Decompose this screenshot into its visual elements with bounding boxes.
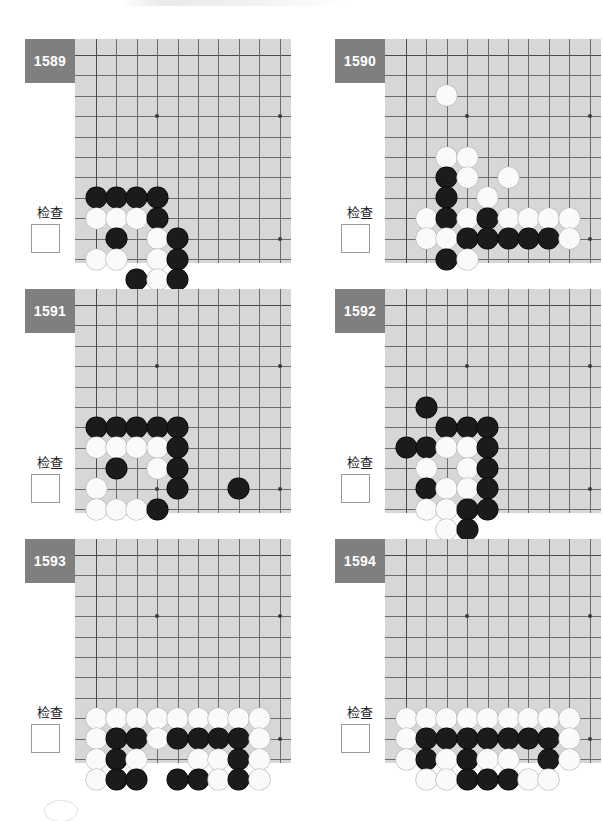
white-stone[interactable] <box>86 749 107 770</box>
black-stone[interactable] <box>86 417 107 438</box>
white-stone[interactable] <box>457 147 478 168</box>
white-stone[interactable] <box>498 708 519 729</box>
go-board[interactable] <box>75 39 291 263</box>
white-stone[interactable] <box>477 708 498 729</box>
white-stone[interactable] <box>147 228 168 249</box>
white-stone[interactable] <box>477 187 498 208</box>
white-stone[interactable] <box>249 728 270 749</box>
white-stone[interactable] <box>106 708 127 729</box>
black-stone[interactable] <box>477 228 498 249</box>
white-stone[interactable] <box>106 208 127 229</box>
black-stone[interactable] <box>436 728 457 749</box>
white-stone[interactable] <box>538 208 559 229</box>
check-checkbox[interactable] <box>31 724 60 753</box>
black-stone[interactable] <box>106 728 127 749</box>
black-stone[interactable] <box>538 749 559 770</box>
black-stone[interactable] <box>416 397 437 418</box>
white-stone[interactable] <box>249 749 270 770</box>
black-stone[interactable] <box>228 728 249 749</box>
white-stone[interactable] <box>436 478 457 499</box>
black-stone[interactable] <box>457 749 478 770</box>
white-stone[interactable] <box>126 749 147 770</box>
white-stone[interactable] <box>457 458 478 479</box>
white-stone[interactable] <box>457 478 478 499</box>
black-stone[interactable] <box>106 417 127 438</box>
white-stone[interactable] <box>228 708 249 729</box>
black-stone[interactable] <box>106 749 127 770</box>
white-stone[interactable] <box>188 708 209 729</box>
black-stone[interactable] <box>498 228 519 249</box>
black-stone[interactable] <box>436 167 457 188</box>
black-stone[interactable] <box>126 417 147 438</box>
black-stone[interactable] <box>416 749 437 770</box>
white-stone[interactable] <box>106 249 127 270</box>
white-stone[interactable] <box>416 228 437 249</box>
white-stone[interactable] <box>396 728 417 749</box>
white-stone[interactable] <box>498 749 519 770</box>
white-stone[interactable] <box>457 249 478 270</box>
white-stone[interactable] <box>559 708 580 729</box>
white-stone[interactable] <box>106 499 127 520</box>
black-stone[interactable] <box>436 208 457 229</box>
white-stone[interactable] <box>416 458 437 479</box>
white-stone[interactable] <box>518 208 539 229</box>
black-stone[interactable] <box>498 769 519 790</box>
white-stone[interactable] <box>208 708 229 729</box>
black-stone[interactable] <box>126 187 147 208</box>
white-stone[interactable] <box>416 499 437 520</box>
black-stone[interactable] <box>167 728 188 749</box>
black-stone[interactable] <box>228 749 249 770</box>
black-stone[interactable] <box>106 769 127 790</box>
white-stone[interactable] <box>147 249 168 270</box>
white-stone[interactable] <box>436 499 457 520</box>
black-stone[interactable] <box>477 728 498 749</box>
go-board[interactable] <box>385 289 601 513</box>
white-stone[interactable] <box>86 499 107 520</box>
white-stone[interactable] <box>436 228 457 249</box>
black-stone[interactable] <box>147 417 168 438</box>
black-stone[interactable] <box>167 437 188 458</box>
white-stone[interactable] <box>559 208 580 229</box>
white-stone[interactable] <box>86 728 107 749</box>
go-board[interactable] <box>385 39 601 263</box>
check-checkbox[interactable] <box>341 474 370 503</box>
white-stone[interactable] <box>436 769 457 790</box>
go-board[interactable] <box>75 539 291 763</box>
black-stone[interactable] <box>106 458 127 479</box>
black-stone[interactable] <box>477 769 498 790</box>
white-stone[interactable] <box>436 147 457 168</box>
black-stone[interactable] <box>167 249 188 270</box>
white-stone[interactable] <box>86 769 107 790</box>
black-stone[interactable] <box>436 187 457 208</box>
black-stone[interactable] <box>436 417 457 438</box>
white-stone[interactable] <box>559 228 580 249</box>
go-board[interactable] <box>385 539 601 763</box>
black-stone[interactable] <box>106 228 127 249</box>
white-stone[interactable] <box>538 708 559 729</box>
white-stone[interactable] <box>249 708 270 729</box>
black-stone[interactable] <box>477 208 498 229</box>
white-stone[interactable] <box>208 769 229 790</box>
white-stone[interactable] <box>436 85 457 106</box>
white-stone[interactable] <box>86 708 107 729</box>
white-stone[interactable] <box>396 708 417 729</box>
white-stone[interactable] <box>457 167 478 188</box>
white-stone[interactable] <box>126 208 147 229</box>
white-stone[interactable] <box>436 437 457 458</box>
white-stone[interactable] <box>436 708 457 729</box>
white-stone[interactable] <box>106 437 127 458</box>
white-stone[interactable] <box>416 708 437 729</box>
white-stone[interactable] <box>167 708 188 729</box>
white-stone[interactable] <box>396 749 417 770</box>
black-stone[interactable] <box>106 187 127 208</box>
black-stone[interactable] <box>518 728 539 749</box>
white-stone[interactable] <box>86 208 107 229</box>
black-stone[interactable] <box>477 499 498 520</box>
black-stone[interactable] <box>147 187 168 208</box>
white-stone[interactable] <box>416 208 437 229</box>
white-stone[interactable] <box>249 769 270 790</box>
black-stone[interactable] <box>167 228 188 249</box>
white-stone[interactable] <box>126 437 147 458</box>
white-stone[interactable] <box>457 708 478 729</box>
black-stone[interactable] <box>457 228 478 249</box>
